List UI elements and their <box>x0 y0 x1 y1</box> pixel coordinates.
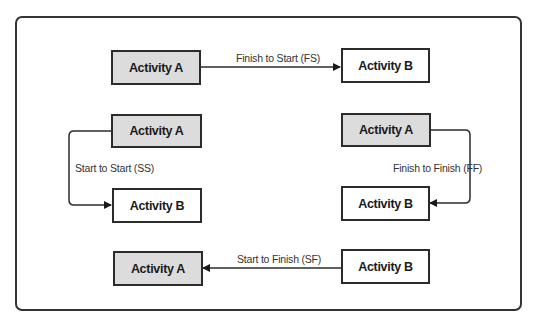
ff-activity-a-box: Activity A <box>341 113 431 147</box>
ss-label: Start to Start (SS) <box>75 162 154 174</box>
sf-activity-b-box: Activity B <box>341 249 430 284</box>
ss-activity-b-box: Activity B <box>112 188 202 223</box>
sf-activity-a-box: Activity A <box>113 251 203 286</box>
sf-label: Start to Finish (SF) <box>237 253 321 265</box>
fs-activity-b-box: Activity B <box>341 48 430 83</box>
fs-label: Finish to Start (FS) <box>236 52 320 64</box>
fs-activity-a-box: Activity A <box>111 50 201 85</box>
ff-label: Finish to Finish (FF) <box>393 162 482 174</box>
ff-activity-b-box: Activity B <box>341 186 430 221</box>
ss-activity-a-box: Activity A <box>111 114 202 148</box>
